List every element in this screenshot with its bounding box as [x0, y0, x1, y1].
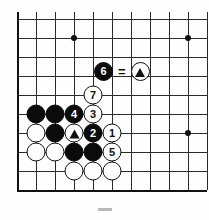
stone-white-e8 [103, 162, 122, 181]
grid-line-vertical-1 [36, 12, 37, 190]
grid-line-vertical-10 [207, 12, 208, 190]
move-number: 4 [71, 108, 77, 119]
move-number: 3 [90, 108, 96, 119]
grid-line-vertical-0 [17, 12, 19, 190]
grid-line-vertical-6 [131, 12, 132, 190]
legend: 6 = [94, 62, 150, 81]
grid-line-horizontal-9 [17, 190, 207, 192]
triangle-icon [69, 130, 79, 139]
stone-white-move-7: 7 [84, 86, 103, 105]
stone-white-b7 [46, 143, 65, 162]
stone-black-c7 [65, 143, 84, 162]
caption-rule [98, 208, 112, 211]
stone-white-move-1: 1 [103, 124, 122, 143]
legend-stone-move-6: 6 [94, 62, 113, 81]
move-number: 5 [109, 146, 115, 157]
triangle-icon [135, 68, 145, 77]
move-number: 7 [90, 89, 96, 100]
move-number: 1 [109, 127, 115, 138]
star-point-top-right [185, 35, 191, 41]
stone-white-a6 [27, 124, 46, 143]
star-point-top-left [71, 35, 77, 41]
stone-black-b6 [46, 124, 65, 143]
legend-move-number: 6 [100, 66, 106, 77]
stone-black-a5 [27, 105, 46, 124]
stone-white-c8 [65, 162, 84, 181]
legend-stone-triangle [131, 62, 150, 81]
stone-black-d7 [84, 143, 103, 162]
grid-line-vertical-7 [150, 12, 151, 190]
stone-white-a7 [27, 143, 46, 162]
stone-black-b5 [46, 105, 65, 124]
stone-black-move-4: 4 [65, 105, 84, 124]
stone-white-move-3: 3 [84, 105, 103, 124]
stone-black-move-2: 2 [84, 124, 103, 143]
stone-white-d8 [84, 162, 103, 181]
go-board-diagram: 432157 6 = [0, 0, 209, 220]
stone-white-move-5: 5 [103, 143, 122, 162]
grid-line-vertical-2 [55, 12, 56, 190]
star-point-right [185, 130, 191, 136]
legend-equals-sign: = [118, 64, 126, 79]
grid-line-vertical-8 [169, 12, 170, 190]
move-number: 2 [90, 127, 96, 138]
stone-white-triangle [65, 124, 84, 143]
